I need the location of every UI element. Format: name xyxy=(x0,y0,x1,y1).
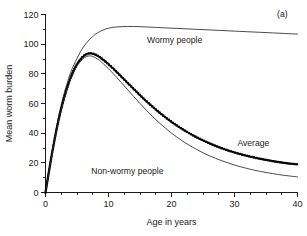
series-marker xyxy=(267,159,269,161)
series-marker xyxy=(92,53,94,55)
series-marker xyxy=(246,155,248,157)
series-marker xyxy=(269,160,271,162)
chart-annotations: (a)Wormy peopleAverageNon-wormy people xyxy=(91,9,287,175)
series-marker xyxy=(209,143,211,145)
series-marker xyxy=(283,162,285,164)
series-marker xyxy=(83,54,85,56)
curve-label-average: Average xyxy=(237,138,269,148)
series-marker xyxy=(234,152,236,154)
series-marker xyxy=(172,122,174,124)
data-series xyxy=(44,26,297,193)
y-tick-label: 40 xyxy=(28,128,38,138)
worm-burden-chart: 020406080100120 010203040 (a)Wormy peopl… xyxy=(0,0,307,236)
series-marker xyxy=(87,52,89,54)
y-axis-title: Mean worm burden xyxy=(4,65,14,143)
series-marker xyxy=(293,163,295,165)
series-marker xyxy=(198,138,200,140)
series-marker xyxy=(174,123,176,125)
x-tick-label: 10 xyxy=(103,199,113,209)
series-line xyxy=(46,56,298,193)
series-marker xyxy=(288,162,290,164)
series-marker xyxy=(85,53,87,55)
series-marker xyxy=(186,131,188,133)
series-marker xyxy=(214,144,216,146)
series-marker xyxy=(295,163,297,165)
series-non-wormy-people xyxy=(46,56,298,193)
x-tick-label: 20 xyxy=(166,199,176,209)
y-tick-label: 0 xyxy=(33,188,38,198)
series-marker xyxy=(264,159,266,161)
series-marker xyxy=(243,154,245,156)
y-axis-ticks xyxy=(41,15,46,193)
series-marker xyxy=(182,128,184,130)
curve-label-wormy-people: Wormy people xyxy=(147,35,202,45)
y-tick-label: 120 xyxy=(23,10,38,20)
y-tick-label: 20 xyxy=(28,158,38,168)
y-tick-label: 80 xyxy=(28,69,38,79)
series-marker xyxy=(190,133,192,135)
series-marker xyxy=(281,161,283,163)
series-marker xyxy=(276,161,278,163)
series-marker xyxy=(207,142,209,144)
series-marker xyxy=(286,162,288,164)
series-marker xyxy=(212,144,214,146)
series-marker xyxy=(257,157,259,159)
series-marker xyxy=(220,147,222,149)
series-marker xyxy=(272,160,274,162)
x-axis-tick-labels: 010203040 xyxy=(43,199,303,209)
series-marker xyxy=(223,148,225,150)
x-tick-label: 30 xyxy=(229,199,239,209)
series-marker xyxy=(192,134,194,136)
series-marker xyxy=(248,155,250,157)
series-marker xyxy=(255,157,257,159)
series-marker xyxy=(260,158,262,160)
series-marker xyxy=(188,132,190,134)
series-marker xyxy=(227,149,229,151)
figure-panel-a: 020406080100120 010203040 (a)Wormy peopl… xyxy=(0,0,307,236)
series-marker xyxy=(232,151,234,153)
series-marker xyxy=(216,145,218,147)
series-marker xyxy=(291,163,293,165)
series-marker xyxy=(218,146,220,148)
series-marker xyxy=(180,127,182,129)
y-tick-label: 100 xyxy=(23,39,38,49)
x-axis-title: Age in years xyxy=(146,217,197,227)
series-marker xyxy=(94,54,96,56)
series-marker xyxy=(236,152,238,154)
series-marker xyxy=(176,124,178,126)
y-tick-label: 60 xyxy=(28,99,38,109)
y-axis-tick-labels: 020406080100120 xyxy=(23,10,38,198)
series-marker xyxy=(262,158,264,160)
series-marker xyxy=(230,150,232,152)
series-marker xyxy=(279,161,281,163)
x-tick-label: 0 xyxy=(43,199,48,209)
series-marker xyxy=(90,52,92,54)
series-line xyxy=(46,26,298,192)
series-marker xyxy=(241,153,243,155)
series-marker xyxy=(196,137,198,139)
x-tick-label: 40 xyxy=(292,199,302,209)
series-average xyxy=(44,52,297,193)
curve-label-non-wormy-people: Non-wormy people xyxy=(91,166,163,176)
series-marker xyxy=(274,160,276,162)
series-marker xyxy=(97,55,99,57)
series-wormy-people xyxy=(46,26,298,192)
series-marker xyxy=(194,135,196,137)
series-marker xyxy=(203,140,205,142)
x-axis-ticks xyxy=(46,193,298,198)
series-marker xyxy=(250,156,252,158)
series-marker xyxy=(205,141,207,143)
series-marker xyxy=(239,153,241,155)
series-marker xyxy=(253,156,255,158)
panel-label: (a) xyxy=(277,9,288,19)
series-marker xyxy=(225,149,227,151)
series-marker xyxy=(178,126,180,128)
series-marker xyxy=(201,139,203,141)
series-marker xyxy=(184,130,186,132)
